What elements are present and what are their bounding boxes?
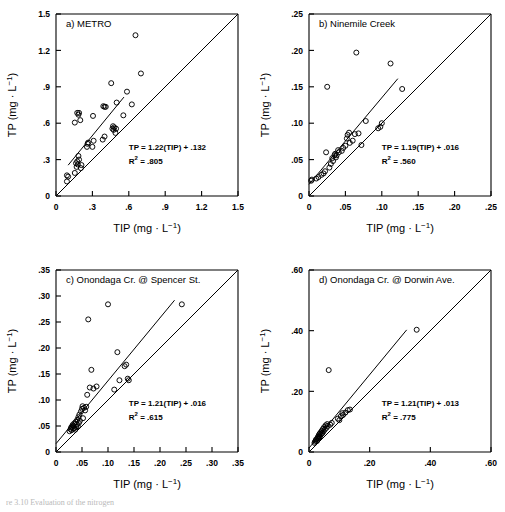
- data-point: [78, 118, 83, 123]
- data-point: [179, 302, 184, 307]
- y-axis-label: TP (mg · L−1): [258, 73, 271, 138]
- data-point: [66, 174, 71, 179]
- x-tick-label: .05: [76, 458, 88, 468]
- regression-equation: TP = 1.19(TIP) + .016: [382, 143, 460, 152]
- panel-title: d) Onondaga Cr. @ Dorwin Ave.: [319, 274, 455, 285]
- x-tick-label: .15: [412, 202, 424, 212]
- regression-line: [56, 300, 175, 443]
- regression-equation: TP = 1.21(TIP) + .016: [129, 399, 207, 408]
- x-tick-label: .35: [232, 458, 244, 468]
- data-point: [89, 367, 94, 372]
- x-tick-label: .30: [206, 458, 218, 468]
- y-tick-label: .05: [291, 155, 303, 165]
- data-point: [354, 50, 359, 55]
- data-point: [400, 86, 405, 91]
- y-tick-label: .35: [38, 265, 50, 275]
- x-tick-label: 0: [307, 202, 312, 212]
- panel-title: c) Onondaga Cr. @ Spencer St.: [66, 274, 200, 285]
- chart-panel-b: 0.05.10.15.20.250.05.10.15.20.25b) Ninem…: [253, 0, 505, 250]
- data-point: [414, 327, 419, 332]
- data-point: [114, 100, 119, 105]
- data-points: [312, 327, 419, 445]
- y-tick-label: .10: [38, 395, 50, 405]
- x-tick-label: .15: [128, 458, 140, 468]
- y-tick-label: .25: [38, 317, 50, 327]
- data-point: [91, 138, 96, 143]
- y-axis-label: TP (mg · L−1): [258, 329, 271, 394]
- x-tick-label: .05: [339, 202, 351, 212]
- data-point: [90, 144, 95, 149]
- data-point: [79, 163, 84, 168]
- data-point: [363, 119, 368, 124]
- data-point: [129, 102, 134, 107]
- data-point: [117, 378, 122, 383]
- x-tick-label: .10: [102, 458, 114, 468]
- y-tick-label: 0: [298, 191, 303, 201]
- one-to-one-line: [309, 270, 491, 452]
- r-squared-label: R2 = .615: [129, 411, 163, 422]
- y-axis-label: TP (mg · L−1): [5, 329, 18, 394]
- data-point: [325, 84, 330, 89]
- data-point: [86, 317, 91, 322]
- y-tick-label: 1.5: [38, 9, 50, 19]
- data-point: [133, 33, 138, 38]
- data-point: [72, 170, 77, 175]
- regression-equation: TP = 1.22(TIP) + .132: [129, 143, 207, 152]
- y-tick-label: .25: [291, 9, 303, 19]
- y-tick-label: .3: [43, 155, 50, 165]
- y-tick-label: 0: [298, 447, 303, 457]
- data-point: [115, 350, 120, 355]
- y-tick-label: 0: [45, 191, 50, 201]
- chart-panel-a: 0.3.6.91.21.50.3.6.91.21.5a) METROTP = 1…: [0, 0, 252, 250]
- figure-caption: re 3.10 Evaluation of the nitrogen: [6, 498, 306, 512]
- data-points: [67, 302, 184, 434]
- regression-equation: TP = 1.21(TIP) + .013: [382, 399, 460, 408]
- data-point: [72, 120, 77, 125]
- data-point: [324, 150, 329, 155]
- figure-four-scatter-panels: 0.3.6.91.21.50.3.6.91.21.5a) METROTP = 1…: [0, 0, 505, 512]
- x-tick-label: .40: [424, 458, 436, 468]
- x-axis-label: TIP (mg · L−1): [113, 221, 181, 234]
- panel-title: b) Ninemile Creek: [319, 18, 395, 29]
- y-tick-label: .9: [43, 82, 50, 92]
- data-point: [109, 81, 114, 86]
- chart-panel-d: 0.20.40.600.20.40.60d) Onondaga Cr. @ Do…: [253, 256, 505, 506]
- one-to-one-line: [309, 14, 491, 196]
- x-tick-label: .9: [162, 202, 169, 212]
- data-point: [64, 173, 69, 178]
- y-axis-label: TP (mg · L−1): [5, 73, 18, 138]
- r-squared-label: R2 = .775: [382, 411, 416, 422]
- data-point: [388, 61, 393, 66]
- data-point: [124, 89, 129, 94]
- x-tick-label: .20: [154, 458, 166, 468]
- data-point: [112, 387, 117, 392]
- x-tick-label: .60: [485, 458, 497, 468]
- data-point: [106, 302, 111, 307]
- data-point: [85, 392, 90, 397]
- data-point: [326, 368, 331, 373]
- x-tick-label: 0: [307, 458, 312, 468]
- y-tick-label: .40: [291, 326, 303, 336]
- data-point: [91, 113, 96, 118]
- x-tick-label: .25: [180, 458, 192, 468]
- regression-line: [309, 79, 398, 185]
- x-tick-label: .20: [449, 202, 461, 212]
- scatter-plot-a: 0.3.6.91.21.50.3.6.91.21.5a) METROTP = 1…: [0, 0, 252, 250]
- x-tick-label: 1.5: [232, 202, 244, 212]
- data-point: [121, 113, 126, 118]
- x-tick-label: .25: [485, 202, 497, 212]
- y-tick-label: .60: [291, 265, 303, 275]
- y-tick-label: .20: [38, 343, 50, 353]
- x-tick-label: 0: [54, 458, 59, 468]
- y-tick-label: .15: [291, 82, 303, 92]
- x-tick-label: .3: [89, 202, 96, 212]
- regression-line: [309, 330, 407, 448]
- scatter-plot-d: 0.20.40.600.20.40.60d) Onondaga Cr. @ Do…: [253, 256, 505, 506]
- scatter-plot-c: 0.05.10.15.20.25.30.350.05.10.15.20.25.3…: [0, 256, 252, 506]
- y-tick-label: .20: [291, 387, 303, 397]
- x-tick-label: 0: [54, 202, 59, 212]
- chart-panel-c: 0.05.10.15.20.25.30.350.05.10.15.20.25.3…: [0, 256, 252, 506]
- y-tick-label: 0: [45, 447, 50, 457]
- x-tick-label: 1.2: [196, 202, 208, 212]
- panel-title: a) METRO: [66, 18, 111, 29]
